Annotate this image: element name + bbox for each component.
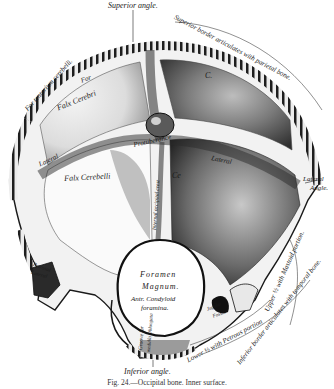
- label-superior-angle: Superior angle.: [108, 2, 158, 10]
- figure-caption: Fig. 24.—Occipital bone. Inner surface.: [0, 378, 334, 387]
- label-inferior-angle: Inferior angle.: [124, 368, 171, 376]
- label-foramina: foramina.: [141, 305, 168, 312]
- label-magnum: Magnum.: [142, 283, 179, 291]
- label-antr-condyloid: Antr. Condyloid: [131, 296, 175, 303]
- label-lateral-angle-2: Angle.: [310, 185, 328, 192]
- label-foramen: Foramen: [140, 271, 176, 279]
- label-lateral-angle-1: Lateral: [303, 176, 324, 183]
- label-c-upper: C.: [205, 72, 212, 80]
- label-ce-right: Ce: [172, 172, 181, 180]
